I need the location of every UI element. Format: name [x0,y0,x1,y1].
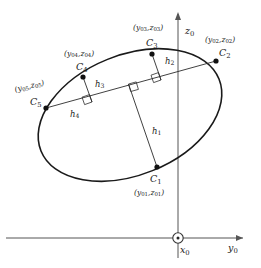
point-label-C2: C2 [219,48,231,59]
axis-label-y0: y0 [228,243,238,254]
origin-x0-marker [173,233,183,243]
axis-label-z0: z0 [185,26,194,37]
point-label-C1: C1 [150,174,162,185]
distance-label-h3: h3 [95,80,104,89]
point-label-C5: C5 [30,97,42,108]
point-label-C4: C4 [76,62,88,73]
perpendicular-h1 [129,82,158,167]
distance-label-h4: h4 [70,110,79,119]
coord-label-C4: (y04,z04) [64,50,94,59]
point-label-C3: C3 [146,38,158,49]
marker-C5 [43,105,48,110]
chord-c5-c2 [46,61,216,108]
marker-C2 [213,58,218,63]
axis-y0 [6,235,243,241]
marker-C4 [80,74,85,79]
marker-C1 [154,164,159,169]
axis-label-x0: x0 [180,245,190,256]
perpendicular-h3 [82,77,92,105]
ellipse-contour [19,23,242,206]
marker-C3 [149,51,154,56]
distance-label-h2: h2 [165,57,174,66]
coord-label-C3: (y03,z03) [133,24,163,33]
perpendicular-h2 [151,54,161,83]
ellipse-geometry-figure: (y03,z03) C3 (y02,z02) C2 (y04,z04) C4 (… [0,0,261,268]
axis-z0 [175,12,181,258]
coord-label-C2: (y02,z02) [205,36,235,45]
distance-label-h1: h1 [152,127,161,136]
coord-label-C1: (y01,z01) [134,189,164,198]
